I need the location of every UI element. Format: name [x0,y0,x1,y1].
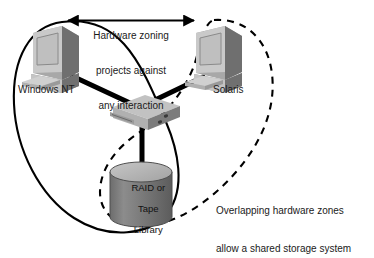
caption-line-2: projects against [70,65,192,76]
overlapping-zones-caption: Overlapping hardware zones allow a share… [216,180,351,258]
node-label-windows-nt: Windows NT [18,84,75,95]
hardware-zoning-caption: Hardware zoning projects against any int… [70,8,192,133]
storage-label-line-3: Library [134,224,163,235]
storage-label-line-2: Tape [138,203,159,214]
storage-label-line-1: RAID or [131,182,165,193]
caption-line-1: Hardware zoning [70,30,192,41]
node-label-solaris: Solaris [213,84,244,95]
caption-line-3: any interaction [70,100,192,111]
desktop-computer-icon-solaris [185,26,242,93]
bottom-caption-line-1: Overlapping hardware zones [216,205,351,218]
bottom-caption-line-2: allow a shared storage system [216,243,351,256]
node-label-storage: RAID or Tape Library [112,172,174,246]
